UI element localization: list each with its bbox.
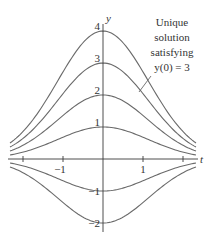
solution-curves-chart: −11 4321−1−2 t y Unique solution satisfy… [0,0,210,240]
y-tick-label: −2 [88,217,100,229]
annotation-line-2: solution [154,31,190,43]
annotation-line-1: Unique [156,16,189,28]
y-tick-label: 2 [95,84,101,96]
t-axis-label: t [200,153,204,165]
t-tick-label: −1 [54,163,66,175]
y-tick-label: 4 [95,20,101,32]
y-axis-ticks: 4321−1−2 [88,20,100,229]
y-tick-label: 1 [95,116,101,128]
annotation-line-3: satisfying [151,46,194,58]
annotation-leader-line [139,76,151,92]
t-tick-label: 1 [140,163,146,175]
y-axis-label: y [105,12,111,24]
unique-solution-annotation: Unique solution satisfying y(0) = 3 [139,16,194,92]
y-tick-label: −1 [88,185,100,197]
annotation-line-4: y(0) = 3 [154,61,190,74]
y-tick-label: 3 [95,52,101,64]
